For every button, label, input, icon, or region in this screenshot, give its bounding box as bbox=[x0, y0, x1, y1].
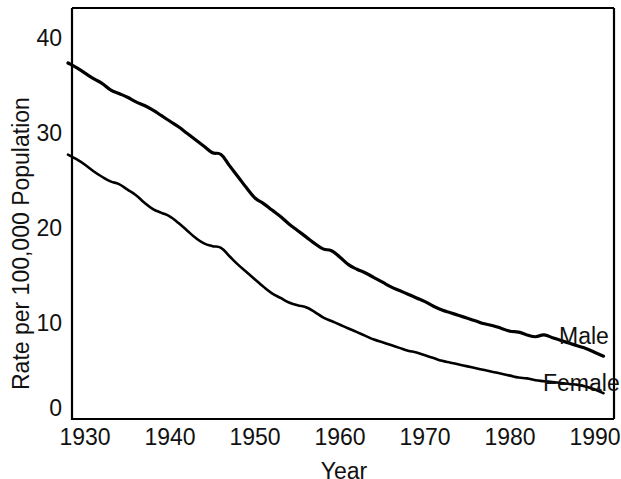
series-line-male bbox=[68, 63, 604, 356]
series-group bbox=[68, 63, 604, 393]
x-tick-label-1940: 1940 bbox=[144, 424, 195, 451]
y-tick-label-40: 40 bbox=[6, 25, 62, 52]
x-tick-label-1980: 1980 bbox=[484, 424, 535, 451]
y-axis-title: Rate per 100,000 Population bbox=[8, 97, 35, 390]
axis-frame-path bbox=[72, 8, 614, 419]
series-label-male: Male bbox=[559, 323, 609, 350]
x-axis-title: Year bbox=[321, 458, 367, 479]
x-tick-label-1950: 1950 bbox=[229, 424, 280, 451]
x-tick-label-1960: 1960 bbox=[314, 424, 365, 451]
plot-frame bbox=[72, 8, 614, 419]
y-tick-label-0: 0 bbox=[6, 395, 62, 422]
series-label-female: Female bbox=[543, 370, 620, 397]
x-tick-label-1930: 1930 bbox=[59, 424, 110, 451]
x-tick-label-1990: 1990 bbox=[569, 424, 620, 451]
x-tick-label-1970: 1970 bbox=[399, 424, 450, 451]
series-line-female bbox=[68, 155, 604, 394]
